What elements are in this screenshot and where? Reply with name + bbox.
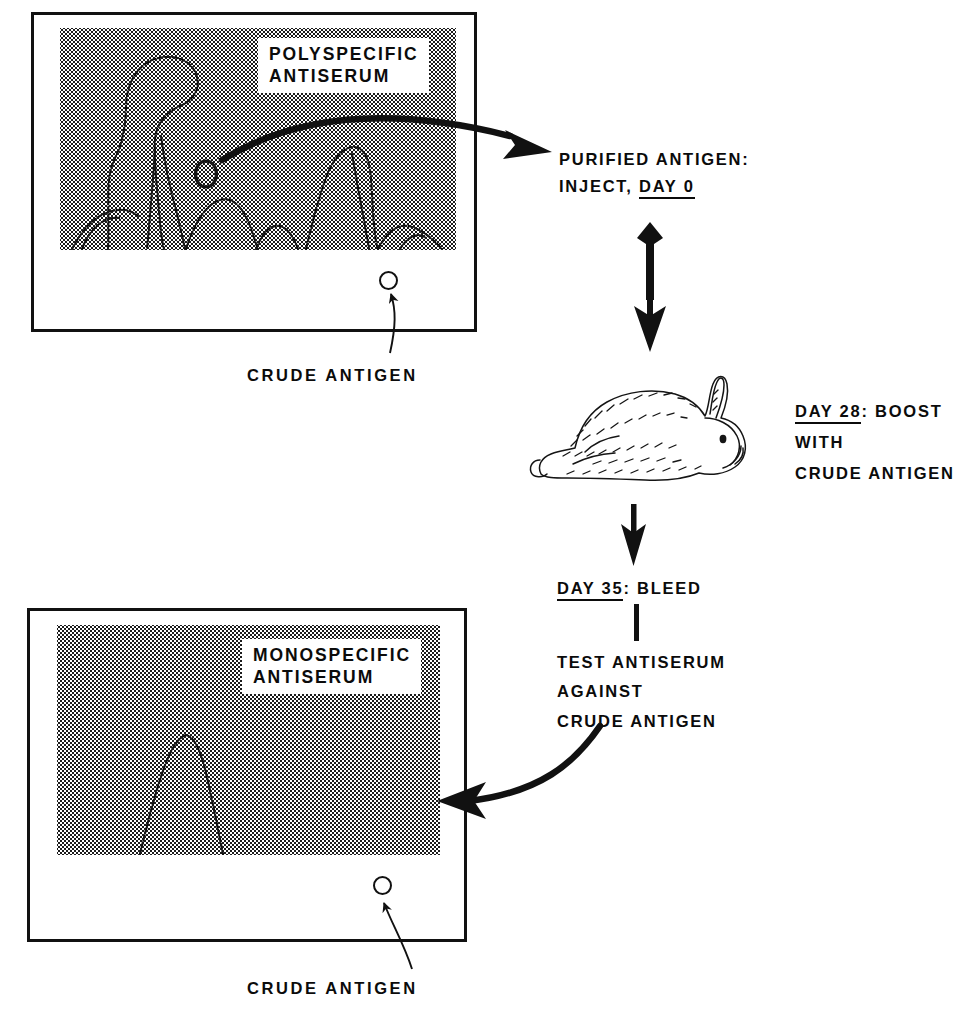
bottom-panel-label-line2: ANTISERUM <box>253 666 411 688</box>
boost-step-day: DAY 28 <box>795 402 861 424</box>
boost-step-line3: CRUDE ANTIGEN <box>795 464 955 482</box>
inject-step-line2-prefix: INJECT, <box>559 177 639 195</box>
inject-step-line1: PURIFIED ANTIGEN: <box>559 150 749 168</box>
top-panel-label-line1: POLYSPECIFIC <box>269 43 419 65</box>
bottom-panel-label-line1: MONOSPECIFIC <box>253 644 411 666</box>
rabbit-illustration <box>527 368 777 498</box>
bleed-to-test-stem <box>634 604 639 641</box>
boost-step-text: DAY 28: BOOST WITH CRUDE ANTIGEN <box>795 396 955 489</box>
boost-step-line2: WITH <box>795 433 844 451</box>
top-panel-well-caption: CRUDE ANTIGEN <box>247 366 418 385</box>
test-step-line1: TEST ANTISERUM <box>557 653 726 671</box>
top-panel-label: POLYSPECIFIC ANTISERUM <box>258 38 429 93</box>
bottom-panel-well-circle <box>373 876 392 895</box>
bleed-step-rest: : BLEED <box>623 579 701 597</box>
bottom-panel-label: MONOSPECIFIC ANTISERUM <box>242 639 421 694</box>
test-step-line2: AGAINST <box>557 682 644 700</box>
diagram-canvas: POLYSPECIFIC ANTISERUM CRUDE ANTIGEN MON… <box>0 0 957 1018</box>
rabbit-to-bleed-arrow <box>621 504 646 566</box>
test-step-text: TEST ANTISERUM AGAINST CRUDE ANTIGEN <box>557 648 726 736</box>
top-panel-well-circle <box>379 271 398 290</box>
test-step-line3: CRUDE ANTIGEN <box>557 712 717 730</box>
inject-step-day: DAY 0 <box>639 177 695 199</box>
bottom-panel-well-caption: CRUDE ANTIGEN <box>247 979 418 998</box>
inject-step-text: PURIFIED ANTIGEN: INJECT, DAY 0 <box>559 146 749 199</box>
bleed-step-day: DAY 35 <box>557 579 623 601</box>
boost-step-line1-rest: : BOOST <box>861 402 942 420</box>
top-panel-gel: POLYSPECIFIC ANTISERUM <box>60 28 456 250</box>
gel-well-marker <box>196 161 217 187</box>
dart-arrow-inject-to-rabbit <box>634 222 666 352</box>
top-panel-label-line2: ANTISERUM <box>269 65 419 87</box>
bottom-panel-gel: MONOSPECIFIC ANTISERUM <box>57 625 440 855</box>
bleed-step-text: DAY 35: BLEED <box>557 575 702 602</box>
